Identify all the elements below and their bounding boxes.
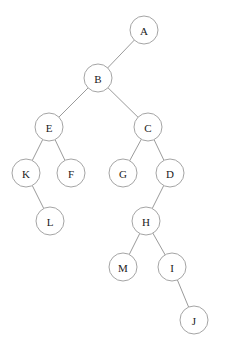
tree-node-i[interactable]: I (158, 253, 186, 281)
tree-edge-a-b (108, 40, 135, 68)
tree-edge-k-l (32, 186, 43, 209)
tree-node-label-j: J (192, 315, 197, 327)
tree-edge-e-k (32, 140, 42, 161)
tree-node-g[interactable]: G (109, 159, 137, 187)
tree-node-j[interactable]: J (180, 306, 208, 334)
tree-edge-c-d (154, 140, 164, 161)
tree-node-e[interactable]: E (35, 113, 63, 141)
tree-node-label-b: B (94, 73, 101, 85)
tree-edge-c-g (130, 139, 142, 160)
tree-node-k[interactable]: K (12, 159, 40, 187)
tree-node-h[interactable]: H (132, 207, 160, 235)
tree-edge-h-m (129, 234, 139, 255)
tree-edge-h-i (153, 233, 165, 255)
tree-node-label-h: H (142, 216, 150, 228)
node-layer: ABECKFGDLHMIJ (12, 16, 208, 334)
tree-node-b[interactable]: B (84, 64, 112, 92)
tree-node-label-l: L (47, 216, 54, 228)
tree-edge-b-c (108, 88, 138, 117)
tree-node-m[interactable]: M (109, 253, 137, 281)
tree-node-label-e: E (46, 122, 53, 134)
tree-node-d[interactable]: D (156, 159, 184, 187)
tree-node-label-a: A (140, 25, 148, 37)
tree-node-l[interactable]: L (36, 207, 64, 235)
tree-diagram: ABECKFGDLHMIJ (0, 0, 225, 356)
tree-edge-e-f (55, 140, 65, 161)
tree-node-label-f: F (68, 168, 74, 180)
tree-node-label-c: C (144, 122, 151, 134)
tree-node-c[interactable]: C (134, 113, 162, 141)
tree-edge-i-j (177, 280, 188, 307)
tree-edge-d-h (152, 186, 163, 209)
tree-node-f[interactable]: F (57, 159, 85, 187)
tree-diagram-canvas: ABECKFGDLHMIJ (0, 0, 225, 356)
tree-node-label-g: G (119, 168, 127, 180)
tree-node-label-m: M (118, 262, 128, 274)
tree-node-label-i: I (170, 262, 174, 274)
tree-node-a[interactable]: A (130, 16, 158, 44)
tree-edge-b-e (59, 88, 88, 117)
tree-node-label-d: D (166, 168, 174, 180)
tree-node-label-k: K (22, 168, 30, 180)
